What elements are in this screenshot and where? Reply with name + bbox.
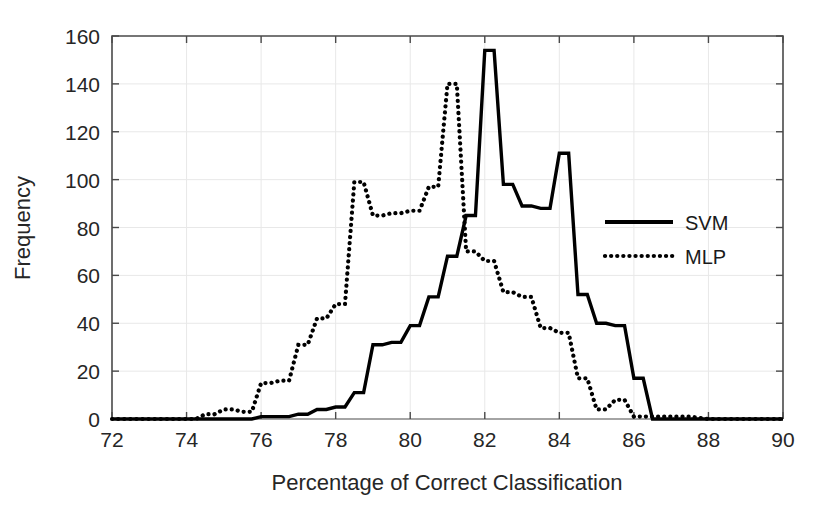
- x-tick-label: 76: [249, 428, 272, 451]
- y-tick-label: 120: [65, 121, 100, 144]
- x-tick-label: 88: [697, 428, 720, 451]
- y-tick-label: 100: [65, 169, 100, 192]
- legend-label-svm: SVM: [685, 212, 728, 234]
- y-tick-label: 20: [77, 360, 100, 383]
- x-tick-label: 90: [771, 428, 794, 451]
- x-tick-label: 86: [622, 428, 645, 451]
- legend-label-mlp: MLP: [685, 246, 726, 268]
- chart-svg: 72747678808284868890 0204060801001201401…: [0, 0, 826, 508]
- x-tick-label: 72: [100, 428, 123, 451]
- y-tick-label: 80: [77, 217, 100, 240]
- y-tick-label: 160: [65, 25, 100, 48]
- x-axis-title: Percentage of Correct Classification: [272, 470, 623, 495]
- x-tick-label: 84: [548, 428, 572, 451]
- y-tick-label: 60: [77, 264, 100, 287]
- histogram-figure: 72747678808284868890 0204060801001201401…: [0, 0, 826, 508]
- x-tick-label: 74: [175, 428, 199, 451]
- x-tick-label: 78: [324, 428, 347, 451]
- x-tick-label: 82: [473, 428, 496, 451]
- x-tick-label: 80: [399, 428, 422, 451]
- y-tick-label: 140: [65, 73, 100, 96]
- y-axis-title: Frequency: [10, 176, 35, 280]
- y-tick-label: 0: [88, 408, 100, 431]
- y-tick-label: 40: [77, 312, 100, 335]
